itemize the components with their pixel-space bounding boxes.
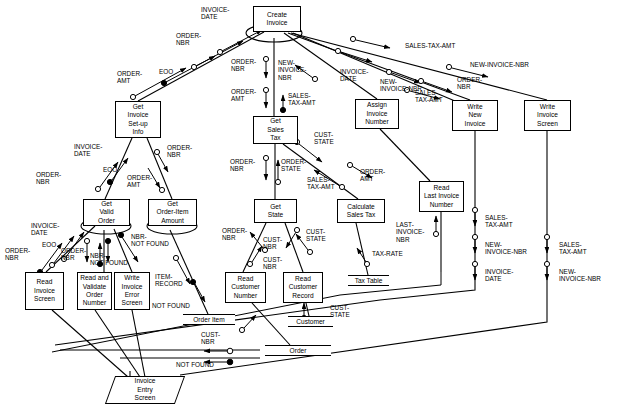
flow-label-lbl-cust-state-gst: CUST- STATE xyxy=(314,131,334,146)
flow-label-lbl-order-amt-calc: ORDER- AMT xyxy=(360,168,385,183)
flow-label-lbl-item-record: ITEM- RECORD xyxy=(155,273,183,288)
flow-label-lbl-order-nbr-top: ORDER- NBR xyxy=(176,32,201,47)
module-get-invoice-setup-info[interactable]: Get Invoice Set-up Info xyxy=(115,101,161,138)
module-get-state[interactable]: Get State xyxy=(254,199,297,223)
flow-label-lbl-sales-tax-amt-write: SALES- TAX-AMT xyxy=(415,89,443,104)
flow-label-lbl-eoo-gisi: EOO xyxy=(103,166,117,173)
flow-label-lbl-not-found-bottom: NOT FOUND xyxy=(176,361,214,368)
flow-label-lbl-invoice-date-wni: INVOICE- DATE xyxy=(485,268,513,283)
flow-label-lbl-order-nbr-gisi-right: ORDER- NBR xyxy=(167,144,192,159)
module-assign-invoice-number[interactable]: Assign Invoice Number xyxy=(355,99,399,129)
module-write-invoice-error-screen[interactable]: Write Invoice Error Screen xyxy=(114,272,150,310)
flow-label-lbl-new-invoice-nbr-wis: NEW- INVOICE-NBR xyxy=(559,268,601,283)
module-read-customer-number[interactable]: Read Customer Number xyxy=(225,272,266,303)
flow-label-lbl-tax-rate: TAX-RATE xyxy=(372,250,403,257)
flow-label-lbl-invoice-date-top: INVOICE- DATE xyxy=(201,6,229,21)
module-calculate-sales-tax[interactable]: Calculate Sales Tax xyxy=(337,199,385,223)
module-get-order-item-amount[interactable]: Get Order-Item Amount xyxy=(148,199,197,226)
flow-label-lbl-sales-tax-amt-ci: SALES- TAX-AMT xyxy=(288,92,316,107)
flow-label-lbl-cust-nbr-getstate: CUST- NBR xyxy=(263,236,282,251)
flow-label-lbl-eoo-gvo: EOO xyxy=(42,241,56,248)
screen-label: Invoice Entry Screen xyxy=(135,377,156,402)
flow-label-lbl-nbr-not-found-gvo: NBR- NOT FOUND xyxy=(90,252,128,267)
flow-label-lbl-order-nbr-getstate: ORDER- NBR xyxy=(222,227,247,242)
module-get-sales-tax[interactable]: Get Sales Tax xyxy=(253,116,298,144)
module-write-new-invoice[interactable]: Write New Invoice xyxy=(452,100,498,131)
flow-label-lbl-sales-tax-amt-gst: SALES- TAX-AMT xyxy=(307,176,335,191)
flow-label-lbl-sales-tax-amt-wni: SALES- TAX-AMT xyxy=(485,214,513,229)
flow-label-lbl-nbr-not-found-goia: NBR- NOT FOUND xyxy=(131,233,169,248)
module-read-last-invoice-number[interactable]: Read Last Invoice Number xyxy=(419,181,464,212)
flow-label-lbl-order-amt-gisi: ORDER- AMT xyxy=(127,174,152,189)
module-read-customer-record[interactable]: Read Customer Record xyxy=(283,272,323,303)
flow-label-lbl-cust-nbr-getstate2: CUST- NBR xyxy=(263,256,282,271)
flow-label-lbl-eoo-top: EOO xyxy=(159,68,173,75)
flow-label-lbl-invoice-date-gisi: INVOICE- DATE xyxy=(74,143,102,158)
module-get-valid-order[interactable]: Get Valid Order xyxy=(83,199,130,226)
screen-invoice-entry-screen[interactable]: Invoice Entry Screen xyxy=(110,376,180,404)
flow-label-lbl-new-invoice-nbr-ci: NEW- INVOICE- NBR xyxy=(278,59,306,81)
datastore-order-item[interactable]: Order Item xyxy=(183,314,235,325)
flow-label-lbl-order-amt-top: ORDER- AMT xyxy=(117,70,142,85)
flow-label-lbl-order-state-gst: ORDER- STATE xyxy=(281,158,306,173)
module-read-and-validate-order-number[interactable]: Read and Validate Order Number xyxy=(77,272,112,310)
flow-label-lbl-new-invoice-nbr-long: NEW-INVOICE-NBR xyxy=(470,61,529,68)
flow-label-lbl-order-nbr-write: ORDER- NBR xyxy=(457,76,482,91)
flow-label-lbl-invoice-date-gvo: INVOICE- DATE xyxy=(31,222,59,237)
flow-label-lbl-order-amt-ci-left: ORDER- AMT xyxy=(231,88,256,103)
flow-label-lbl-order-nbr-gvo-right: ORDER- NBR xyxy=(61,247,86,262)
datastore-customer[interactable]: Customer xyxy=(288,316,333,327)
flow-label-lbl-order-nbr-gvo-left: ORDER- NBR xyxy=(5,247,30,262)
flow-label-lbl-order-nbr-gisi-left: ORDER- NBR xyxy=(36,171,61,186)
flow-label-lbl-cust-state-rcr: CUST- STATE xyxy=(306,228,326,243)
flow-label-lbl-last-invoice-nbr: LAST- INVOICE- NBR xyxy=(396,221,424,243)
flow-label-lbl-not-found-item: NOT FOUND xyxy=(152,302,190,309)
structure-chart-diagram: Create Invoice Get Invoice Set-up Info G… xyxy=(0,0,618,417)
flow-label-lbl-invoice-date-assign: INVOICE- DATE xyxy=(340,68,368,83)
flow-label-lbl-cust-state-cust: CUST- STATE xyxy=(330,304,350,319)
flow-label-lbl-sales-tax-amt-wis: SALES- TAX-AMT xyxy=(559,241,587,256)
datastore-tax-table[interactable]: Tax Table xyxy=(348,275,389,286)
flow-label-lbl-sales-tax-amt-long: SALES-TAX-AMT xyxy=(405,42,455,49)
flow-label-lbl-new-invoice-nbr-wni: NEW- INVOICE-NBR xyxy=(485,241,527,256)
module-write-invoice-screen[interactable]: Write Invoice Screen xyxy=(524,100,571,131)
datastore-order[interactable]: Order xyxy=(265,345,331,356)
module-create-invoice[interactable]: Create Invoice xyxy=(253,6,301,32)
flow-label-lbl-order-nbr-gst: ORDER- NBR xyxy=(230,158,255,173)
flow-label-lbl-cust-nbr-order: CUST- NBR xyxy=(201,331,220,346)
module-read-invoice-screen[interactable]: Read Invoice Screen xyxy=(25,272,64,310)
flow-label-lbl-order-nbr-ci-left: ORDER- NBR xyxy=(231,58,256,73)
